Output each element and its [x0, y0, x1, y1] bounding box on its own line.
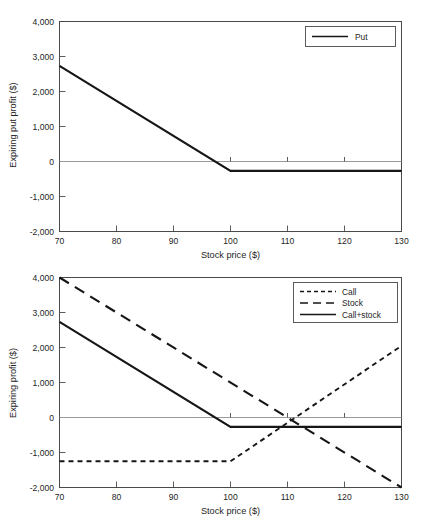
bottom-legend: Call Stock Call+stock [294, 283, 398, 323]
top-xtick-70: 70 [55, 236, 65, 246]
bottom-xtick-130: 130 [394, 492, 409, 502]
series-call-line [60, 346, 402, 462]
top-xtick-80: 80 [112, 236, 122, 246]
top-xtick-130: 130 [394, 236, 409, 246]
bottom-ytick-3000: 3,000 [32, 308, 54, 318]
bottom-xtick-70: 70 [55, 492, 65, 502]
bottom-ytick-2000: 2,000 [32, 343, 54, 353]
bottom-ytick-1000: 1,000 [32, 378, 54, 388]
bottom-ytick-0: 0 [49, 413, 54, 423]
top-y-axis-title: Expiring put profit ($) [8, 82, 18, 167]
bottom-xtick-100: 100 [223, 492, 238, 502]
top-ytick-0: 0 [49, 157, 54, 167]
top-x-ticks [60, 226, 402, 232]
top-y-ticks [60, 22, 66, 232]
bottom-xtick-90: 90 [169, 492, 179, 502]
bottom-ytick-neg2000: -2,000 [30, 483, 55, 493]
top-xtick-110: 110 [281, 236, 295, 246]
top-xtick-100: 100 [223, 236, 238, 246]
call-stock-figure: Expiring profit ($) 4,000 3,000 2,000 1,… [0, 265, 423, 530]
top-ytick-3000: 3,000 [32, 52, 54, 62]
bottom-x-ticks [60, 482, 402, 488]
bottom-ytick-neg1000: -1,000 [30, 448, 55, 458]
top-legend-label-put: Put [355, 32, 368, 42]
top-ytick-1000: 1,000 [32, 122, 54, 132]
bottom-ytick-4000: 4,000 [32, 273, 54, 283]
bottom-xtick-120: 120 [337, 492, 352, 502]
series-put-line [60, 66, 402, 171]
top-zero-ticks [231, 157, 345, 162]
top-xtick-120: 120 [337, 236, 352, 246]
top-ytick-2000: 2,000 [32, 87, 54, 97]
bottom-legend-label-call: Call [342, 287, 357, 297]
bottom-xtick-80: 80 [112, 492, 122, 502]
top-x-axis-title: Stock price ($) [201, 250, 260, 260]
top-plot-frame [60, 22, 402, 232]
top-xtick-90: 90 [169, 236, 179, 246]
bottom-y-axis-title: Expiring profit ($) [8, 348, 18, 418]
series-call-plus-stock-line [60, 322, 402, 427]
top-ytick-neg2000: -2,000 [30, 227, 55, 237]
bottom-legend-label-stock: Stock [342, 298, 364, 308]
put-profit-figure: Expiring put profit ($) 4,000 3,000 2,00… [0, 0, 423, 265]
bottom-xtick-110: 110 [281, 492, 295, 502]
bottom-legend-label-call-plus-stock: Call+stock [342, 310, 382, 320]
bottom-x-axis-title: Stock price ($) [201, 506, 260, 516]
top-legend: Put [306, 27, 396, 47]
top-ytick-neg1000: -1,000 [30, 192, 55, 202]
top-ytick-4000: 4,000 [32, 17, 54, 27]
call-stock-chart: Expiring profit ($) 4,000 3,000 2,000 1,… [0, 265, 423, 530]
bottom-y-ticks [60, 278, 66, 488]
put-profit-chart: Expiring put profit ($) 4,000 3,000 2,00… [0, 0, 423, 265]
bottom-zero-ticks [231, 413, 345, 418]
